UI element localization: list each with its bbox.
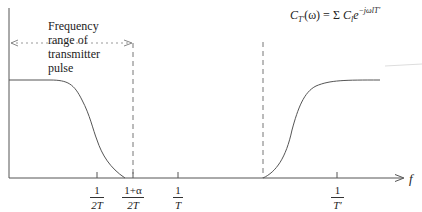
aliased-spectrum-curve	[263, 80, 380, 178]
formula-lhs-symbol: C	[290, 8, 298, 22]
annotation-line-2: range of	[48, 33, 128, 47]
tick-label-1-2T: 1 2T	[90, 184, 104, 211]
tick-label-1-T: 1 T	[173, 184, 183, 211]
formula-rhs-exponent: −jωlT′	[358, 6, 380, 15]
faint-extension-line	[385, 64, 422, 66]
annotation-line-1: Frequency	[48, 19, 128, 33]
formula-lhs-arg: (ω) = Σ	[304, 8, 343, 22]
transmitter-spectrum-curve	[9, 80, 125, 178]
annotation-line-3: transmitter	[48, 47, 128, 61]
tick-label-1plusalpha-2T: 1+α 2T	[122, 184, 144, 211]
annotation-line-4: pulse	[48, 61, 128, 75]
x-axis-label: f	[409, 171, 413, 187]
formula-rhs-symbol: C	[343, 8, 351, 22]
tick-label-1-Tprime: 1 T′	[331, 184, 344, 211]
frequency-range-annotation: Frequency range of transmitter pulse	[48, 19, 128, 75]
fourier-series-formula: CT′(ω) = Σ Cle−jωlT′	[290, 6, 380, 24]
